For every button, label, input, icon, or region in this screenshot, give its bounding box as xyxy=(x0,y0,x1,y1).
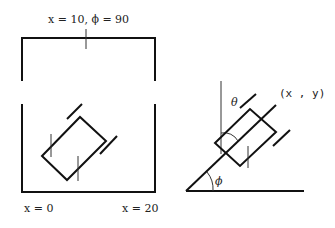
wheel-top-right xyxy=(240,94,256,108)
phi-label: ϕ xyxy=(215,175,223,188)
phi-arc xyxy=(207,172,213,191)
robot-left xyxy=(42,104,117,181)
x0-label: x = 0 xyxy=(24,202,53,215)
x20-label: x = 20 xyxy=(122,202,158,215)
diagram-canvas: x = 10, ϕ = 90 x = 0 x = 20 (x , y) θ ϕ xyxy=(0,0,335,228)
theta-label: θ xyxy=(231,96,238,109)
arena-box xyxy=(22,29,155,192)
position-label: (x , y) xyxy=(279,87,325,100)
top-label: x = 10, ϕ = 90 xyxy=(48,13,129,26)
robot-right xyxy=(215,94,290,168)
